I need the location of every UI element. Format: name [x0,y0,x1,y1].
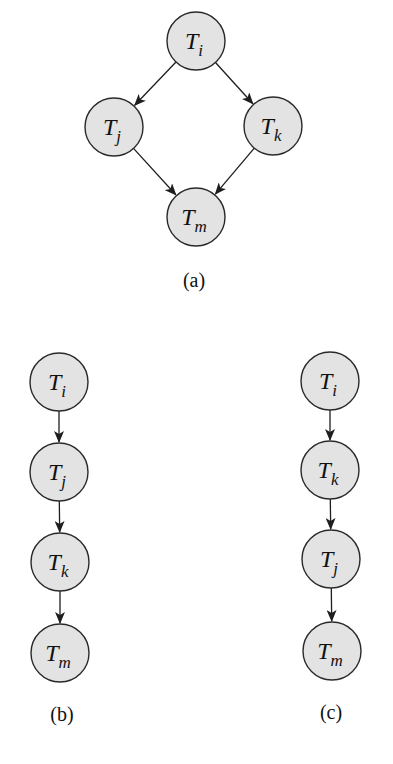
subfigure-caption-c: (c) [320,701,342,724]
node-a-Tk: Tk [244,97,302,155]
node-label-subscript: j [114,127,121,146]
subfigure-caption-b: (b) [50,703,73,726]
node-b-Tj: Tj [30,443,88,501]
precedence-graph-figure: TiTjTkTm(a) TiTjTkTm(b) TiTkTjTm(c) [0,0,393,764]
node-b-Ti: Ti [30,353,88,411]
node-label-subscript: m [331,651,343,670]
node-c-Tk: Tk [301,441,359,499]
node-label-subscript: m [195,217,207,236]
node-a-Tj: Tj [85,98,143,156]
node-label-subscript: k [274,126,282,145]
node-label-subscript: m [59,653,71,672]
node-c-Tm: Tm [303,622,361,680]
node-label-subscript: j [59,472,66,491]
subfigure-b: TiTjTkTm(b) [30,353,89,726]
edge-arrow-a-Tk-to-a-Tm [215,148,254,194]
edge-arrow-a-Ti-to-a-Tj [135,62,176,105]
node-b-Tk: Tk [31,533,89,591]
node-b-Tm: Tm [31,624,89,682]
node-label-subscript: i [332,381,337,400]
node-c-Ti: Ti [301,352,359,410]
node-a-Tm: Tm [167,188,225,246]
node-label-subscript: i [198,41,203,60]
subfigure-c: TiTkTjTm(c) [301,352,361,724]
subfigure-caption-a: (a) [183,269,205,292]
node-label-subscript: j [331,559,338,578]
subfigure-a: TiTjTkTm(a) [85,12,302,292]
node-label-subscript: k [61,562,69,581]
edge-arrow-a-Tj-to-a-Tm [134,148,176,194]
node-label-subscript: k [331,470,339,489]
node-label-subscript: i [61,382,66,401]
node-a-Ti: Ti [167,12,225,70]
edge-arrow-a-Ti-to-a-Tk [216,63,253,104]
node-c-Tj: Tj [302,530,360,588]
